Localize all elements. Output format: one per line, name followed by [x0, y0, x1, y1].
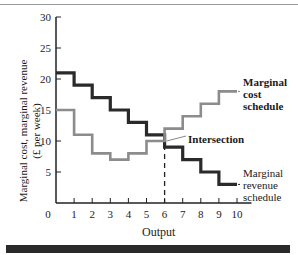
bottom-bar	[6, 245, 290, 253]
x-tick-label: 9	[216, 208, 222, 220]
mr-label-line3: schedule	[243, 191, 283, 203]
x-tick-label: 0	[45, 208, 51, 220]
y-axis-label-line1: Marginal cost, marginal revenue	[17, 51, 30, 211]
x-tick-label: 5	[144, 208, 150, 220]
x-tick-label: 8	[198, 208, 204, 220]
x-tick-label: 6	[162, 208, 168, 220]
step-chart: 51015202530012345678910	[0, 0, 298, 255]
intersection-leader	[167, 136, 186, 141]
x-tick-label: 4	[126, 208, 132, 220]
x-tick-label: 7	[180, 208, 186, 220]
x-tick-label: 1	[71, 208, 77, 220]
x-axis-label: Output	[142, 226, 175, 238]
mc-label-line2: cost	[243, 88, 287, 100]
mr-label-line1: Marginal	[243, 167, 283, 179]
y-axis-label: Marginal cost, marginal revenue (£ per w…	[17, 51, 43, 211]
x-tick-label: 2	[89, 208, 95, 220]
marginal-revenue-label: Marginal revenue schedule	[243, 167, 283, 203]
mr-label-line2: revenue	[243, 179, 283, 191]
marginal-cost-label: Marginal cost schedule	[243, 76, 287, 112]
y-tick-label: 30	[40, 11, 52, 23]
intersection-label: Intersection	[188, 133, 244, 145]
x-tick-label: 3	[108, 208, 114, 220]
y-tick-label: 5	[46, 166, 52, 178]
x-tick-label: 10	[232, 208, 244, 220]
y-axis-label-line2: (£ per week)	[30, 51, 43, 211]
marginal-revenue-line	[56, 73, 237, 185]
mc-label-line1: Marginal	[243, 76, 287, 88]
mc-label-line3: schedule	[243, 100, 287, 112]
